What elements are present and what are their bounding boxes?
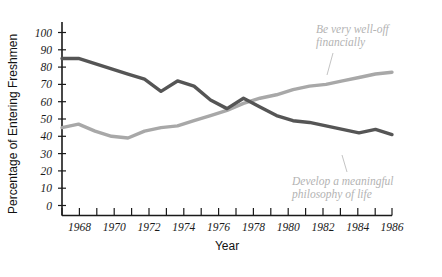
y-tick-label: 60: [41, 96, 53, 108]
y-tick-label: 80: [41, 61, 53, 73]
y-tick-label: 50: [41, 113, 53, 125]
y-axis-title: Percentage of Entering Freshmen: [6, 34, 20, 214]
annotation-develop-a-meaningful-philosophy-of-life: Develop a meaningful philosophy of life: [291, 155, 394, 201]
y-tick-label: 30: [40, 148, 53, 160]
x-tick-label: 1982: [312, 221, 335, 233]
annotation-leader-line: [327, 53, 333, 75]
y-tick-label: 100: [35, 27, 53, 39]
x-axis-title: Year: [215, 239, 239, 253]
x-tick-label: 1968: [68, 221, 91, 233]
y-tick-label: 90: [41, 44, 53, 56]
annotation-be-very-well-off-financially: Be very well-off financially: [316, 23, 391, 75]
x-tick-label: 1978: [242, 221, 265, 233]
x-axis-tick-labels: 1968 1970 1972 1974 1976 1978 1980 1982 …: [68, 221, 404, 233]
annotation-leader-line: [342, 155, 347, 172]
annotation-line-1: Be very well-off: [316, 23, 391, 36]
y-axis-tick-labels: 100 90 80 70 60 50 40 30 20 10 0: [35, 27, 53, 212]
x-tick-label: 1986: [381, 221, 404, 233]
y-tick-label: 10: [41, 182, 53, 194]
series-line-develop-a-meaningful-philosophy-of-life: [62, 58, 392, 134]
annotation-line-2: financially: [316, 36, 366, 49]
y-tick-label: 0: [46, 200, 52, 212]
y-tick-label: 70: [41, 78, 53, 90]
line-chart: Percentage of Entering Freshmen 100 90 8…: [0, 0, 442, 277]
x-tick-label: 1972: [138, 221, 161, 233]
x-tick-label: 1974: [172, 221, 195, 233]
x-tick-label: 1980: [277, 221, 300, 233]
chart-container: Percentage of Entering Freshmen 100 90 8…: [0, 0, 442, 277]
x-axis-ticks: [62, 208, 392, 216]
x-tick-label: 1976: [207, 221, 230, 233]
annotation-line-2: philosophy of life: [291, 188, 372, 201]
y-tick-label: 40: [41, 130, 53, 142]
annotation-line-1: Develop a meaningful: [291, 175, 394, 188]
y-tick-label: 20: [41, 165, 53, 177]
x-tick-label: 1984: [346, 221, 369, 233]
x-tick-label: 1970: [103, 221, 126, 233]
